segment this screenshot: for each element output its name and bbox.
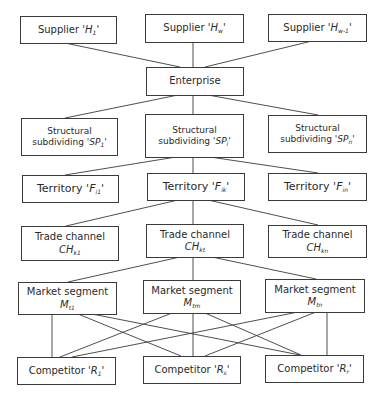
node-subscript: s xyxy=(224,369,227,376)
node-subscript: w-1 xyxy=(338,27,349,34)
node-subscript: i1 xyxy=(95,188,100,195)
node-label: Competitor xyxy=(277,363,333,374)
node-market-segment-mtn: Market segment Mtn xyxy=(265,279,365,313)
node-label: Trade channel xyxy=(35,231,105,244)
node-label: Territory xyxy=(163,180,209,193)
node-label: Supplier xyxy=(283,22,324,33)
node-label: Supplier xyxy=(38,24,79,35)
node-subscript: 1 xyxy=(98,370,102,377)
node-symbol: M xyxy=(184,297,193,308)
node-label: Structural xyxy=(47,126,92,137)
node-subscript: r xyxy=(346,368,348,375)
edge-mtm-rr xyxy=(205,313,301,355)
edge-enterprise-spn xyxy=(208,95,318,115)
node-symbol: H xyxy=(330,22,338,33)
node-market-segment-mt1: Market segment Mt1 xyxy=(18,282,117,315)
node-symbol: H xyxy=(85,24,93,35)
node-label: Competitor xyxy=(155,364,211,375)
node-market-segment-mtm: Market segment Mtm xyxy=(143,280,241,314)
node-trade-channel-chkn: Trade channel CHkn xyxy=(268,225,367,258)
node-supplier-h1: Supplier 'H1' xyxy=(20,16,117,44)
node-symbol: CH xyxy=(307,242,322,253)
node-subscript: k1 xyxy=(74,249,81,256)
node-label: Structural xyxy=(172,125,217,136)
node-subscript: in xyxy=(342,186,347,193)
node-label: Market segment xyxy=(27,286,108,299)
node-structural-spn: Structural subdividing 'SPn' xyxy=(268,115,367,153)
edge-h1-enterprise xyxy=(65,43,180,67)
edge-spi-fin xyxy=(210,157,318,173)
node-subscript: kt xyxy=(199,246,205,253)
node-symbol: SP xyxy=(337,134,348,144)
edge-mtn-r1 xyxy=(72,312,298,357)
node-label-2: subdividing xyxy=(32,137,84,147)
node-label: Competitor xyxy=(29,365,85,376)
node-label: Trade channel xyxy=(282,229,352,242)
edge-fik-chkn xyxy=(208,200,318,225)
node-label: Supplier xyxy=(163,22,204,33)
node-supplier-hw-1: Supplier 'Hw-1' xyxy=(268,14,367,42)
node-subscript: tn xyxy=(316,301,322,308)
node-symbol: H xyxy=(210,22,218,33)
node-symbol: M xyxy=(308,296,317,307)
node-trade-channel-chk1: Trade channel CHk1 xyxy=(21,226,119,261)
edge-mt1-rs xyxy=(78,314,181,356)
node-symbol: SP xyxy=(215,136,226,146)
edge-fik-chk1 xyxy=(66,200,178,226)
node-symbol: R xyxy=(217,364,224,375)
node-competitor-rr: Competitor 'Rr' xyxy=(265,355,364,383)
node-label: Enterprise xyxy=(169,75,220,88)
node-label: Trade channel xyxy=(160,229,230,242)
node-competitor-r1: Competitor 'R1' xyxy=(17,357,116,385)
node-subscript: tm xyxy=(192,302,200,309)
node-subscript: 1 xyxy=(93,29,97,36)
node-subscript: t1 xyxy=(69,304,75,311)
node-territory-fi1: Territory 'Fi1' xyxy=(22,175,119,203)
edge-mtm-r1 xyxy=(60,313,172,357)
node-label: Market segment xyxy=(274,284,355,297)
node-symbol: M xyxy=(60,299,69,310)
node-label-2: subdividing xyxy=(158,136,210,146)
edge-chkt-mtn xyxy=(212,257,316,279)
node-subscript: w xyxy=(218,27,223,34)
node-enterprise: Enterprise xyxy=(146,67,244,96)
node-label: Structural xyxy=(295,123,340,134)
node-subscript: ik xyxy=(221,186,226,193)
node-label: Territory xyxy=(37,182,83,195)
node-subscript: i xyxy=(227,140,229,147)
node-label-2: subdividing xyxy=(280,134,332,144)
node-symbol: CH xyxy=(59,244,74,255)
node-competitor-rs: Competitor 'Rs' xyxy=(143,356,241,384)
node-symbol: CH xyxy=(185,241,200,252)
hierarchy-diagram: Supplier 'H1' Supplier 'Hw' Supplier 'Hw… xyxy=(0,0,383,402)
node-trade-channel-chkt: Trade channel CHkt xyxy=(146,224,244,258)
node-symbol: SP xyxy=(89,137,100,147)
node-subscript: n xyxy=(348,138,352,145)
edge-mt1-rr xyxy=(92,314,300,355)
node-territory-fin: Territory 'Fin' xyxy=(268,173,367,201)
edge-hw1-enterprise xyxy=(205,41,312,67)
node-subscript: kn xyxy=(321,247,328,254)
node-label: Market segment xyxy=(151,285,232,298)
node-subscript: 1 xyxy=(100,141,104,148)
node-territory-fik: Territory 'Fik' xyxy=(147,173,245,201)
node-symbol: R xyxy=(91,365,98,376)
node-supplier-hw: Supplier 'Hw' xyxy=(145,14,244,43)
edge-mtn-rs xyxy=(205,312,316,356)
node-structural-spi: Structural subdividing 'SPi' xyxy=(145,114,244,158)
node-structural-sp1: Structural subdividing 'SP1' xyxy=(21,118,118,156)
node-label: Territory xyxy=(284,180,330,193)
